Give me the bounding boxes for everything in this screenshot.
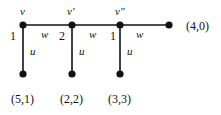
node-b3: [116, 70, 123, 77]
node-end: [165, 21, 172, 28]
edge-label-u-3: u: [127, 45, 133, 57]
label-v: v: [20, 5, 25, 17]
label-b2: (2,2): [60, 92, 83, 106]
node-b1: [19, 70, 26, 77]
edge-label-u-2: u: [79, 45, 85, 57]
node-b2: [68, 70, 75, 77]
label-b1: (5,1): [11, 92, 34, 106]
edge-label-w-3: w: [136, 28, 144, 40]
label-b3: (3,3): [108, 92, 131, 106]
node-v-double-prime: [116, 21, 123, 28]
node-v-prime: [68, 21, 75, 28]
tree-diagram: v v′ v″ 1 2 1 w w w u u u (4,0) (5,1) (2…: [0, 0, 221, 115]
node-v: [19, 21, 26, 28]
weight-v-double-prime: 1: [110, 29, 116, 43]
label-v-prime: v′: [67, 5, 75, 17]
edge-label-w-2: w: [89, 28, 97, 40]
label-end: (4,0): [186, 19, 209, 33]
edge-label-u-1: u: [30, 45, 36, 57]
edge-label-w-1: w: [41, 28, 49, 40]
weight-v-prime: 2: [59, 29, 65, 43]
weight-v: 1: [10, 29, 16, 43]
label-v-double-prime: v″: [115, 5, 125, 17]
